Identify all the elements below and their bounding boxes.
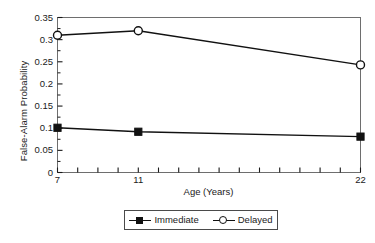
filled-square-marker-icon [129, 215, 151, 225]
marker-delayed-11 [134, 27, 142, 35]
legend-label-delayed: Delayed [238, 215, 273, 225]
plot-frame [58, 18, 361, 173]
chart-figure: False-Alarm Probability 00.050.10.150.20… [0, 0, 375, 243]
marker-immediate-11 [135, 128, 142, 135]
marker-immediate-7 [54, 124, 61, 131]
series-line-immediate [58, 128, 361, 137]
marker-delayed-22 [357, 61, 365, 69]
legend-item-immediate: Immediate [129, 215, 198, 225]
legend-item-delayed: Delayed [213, 215, 273, 225]
marker-immediate-22 [357, 133, 364, 140]
chart-legend: Immediate Delayed [124, 210, 278, 230]
series-line-delayed [58, 31, 361, 65]
marker-delayed-7 [54, 31, 62, 39]
legend-label-immediate: Immediate [154, 215, 198, 225]
open-circle-marker-icon [213, 215, 235, 225]
plot-area [0, 0, 375, 243]
